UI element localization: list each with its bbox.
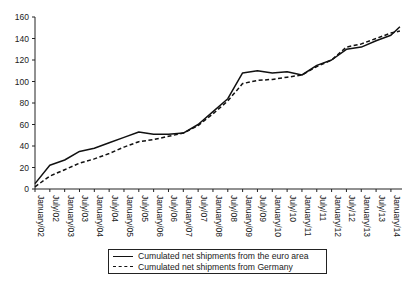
y-tick-label: 120 xyxy=(15,55,29,65)
germany-line xyxy=(35,31,400,187)
x-tick-label: January/06 xyxy=(155,195,165,237)
x-axis: January/02July/02January/03July/03Januar… xyxy=(35,189,402,237)
y-tick-label: 0 xyxy=(24,184,29,194)
legend-label: Cumulated net shipments from Germany xyxy=(138,262,293,273)
y-tick-label: 20 xyxy=(20,163,30,173)
x-tick-label: January/14 xyxy=(392,195,402,237)
legend-label: Cumulated net shipments from the euro ar… xyxy=(138,251,309,262)
x-tick-label: January/03 xyxy=(66,195,76,237)
x-tick-label: July/02 xyxy=(51,195,61,222)
x-tick-label: January/04 xyxy=(95,195,105,237)
x-tick-label: July/09 xyxy=(258,195,268,222)
series-lines xyxy=(35,27,400,187)
x-tick-label: January/09 xyxy=(244,195,254,237)
legend-item-euro-area: Cumulated net shipments from the euro ar… xyxy=(113,251,326,262)
x-tick-label: January/05 xyxy=(125,195,135,237)
x-tick-label: January/11 xyxy=(303,195,313,237)
y-tick-label: 140 xyxy=(15,34,29,44)
x-tick-label: July/04 xyxy=(110,195,120,222)
x-tick-label: July/10 xyxy=(288,195,298,222)
x-tick-label: July/06 xyxy=(169,195,179,222)
x-tick-label: January/08 xyxy=(214,195,224,237)
x-tick-label: July/03 xyxy=(80,195,90,222)
x-tick-label: July/11 xyxy=(318,195,328,222)
y-tick-label: 80 xyxy=(20,98,30,108)
y-tick-label: 60 xyxy=(20,120,30,130)
x-tick-label: July/13 xyxy=(377,195,387,222)
y-axis: 020406080100120140160 xyxy=(15,12,35,194)
y-tick-label: 100 xyxy=(15,77,29,87)
x-tick-label: January/02 xyxy=(36,195,46,237)
solid-line-icon xyxy=(113,256,133,257)
x-tick-label: January/07 xyxy=(184,195,194,237)
y-tick-label: 160 xyxy=(15,12,29,22)
x-tick-label: July/05 xyxy=(140,195,150,222)
x-tick-label: January/10 xyxy=(273,195,283,237)
x-tick-label: July/07 xyxy=(199,195,209,222)
dashed-line-icon xyxy=(113,266,133,267)
legend-item-germany: Cumulated net shipments from Germany xyxy=(113,262,326,273)
legend: Cumulated net shipments from the euro ar… xyxy=(108,249,327,274)
x-tick-label: July/12 xyxy=(347,195,357,222)
y-tick-label: 40 xyxy=(20,141,30,151)
x-tick-label: January/13 xyxy=(362,195,372,237)
line-chart: 020406080100120140160 January/02July/02J… xyxy=(0,0,416,288)
x-tick-label: January/12 xyxy=(333,195,343,237)
x-tick-label: July/08 xyxy=(229,195,239,222)
